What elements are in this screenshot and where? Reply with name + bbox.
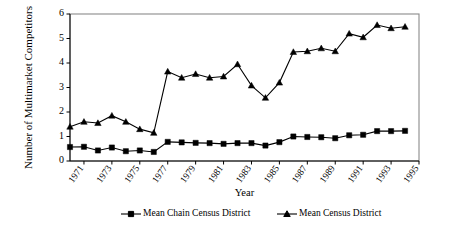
data-point [165,139,170,144]
chart-background [0,0,452,226]
data-point [235,141,240,146]
data-point [249,141,254,146]
data-point [221,141,226,146]
legend-square-marker-icon [128,211,133,216]
data-point [305,134,310,139]
data-point [95,148,100,153]
y-tick-label: 3 [59,81,64,92]
legend-label: Mean Chain Census District [143,208,251,218]
data-point [81,144,86,149]
data-point [347,133,352,138]
y-tick-label: 4 [59,56,64,67]
data-point [388,129,393,134]
data-point [207,141,212,146]
data-point [277,140,282,145]
data-point [193,140,198,145]
data-point [291,134,296,139]
data-point [333,136,338,141]
y-tick-label: 1 [59,130,64,141]
data-point [402,128,407,133]
x-axis-title: Year [235,187,255,198]
data-point [263,143,268,148]
data-point [109,145,114,150]
data-point [361,132,366,137]
y-tick-label: 2 [59,105,64,116]
y-tick-label: 5 [59,32,64,43]
line-chart: 6543210 19711973197519771979198119831985… [0,0,452,226]
legend-label: Mean Census District [299,208,382,218]
y-tick-label: 0 [59,154,64,165]
data-point [319,135,324,140]
data-point [67,144,72,149]
data-point [375,129,380,134]
data-point [137,148,142,153]
data-point [123,149,128,154]
y-tick-label: 6 [59,7,64,18]
chart-container: 6543210 19711973197519771979198119831985… [0,0,452,226]
data-point [179,140,184,145]
data-point [151,149,156,154]
y-axis-title: Number of Multimarket Competitors [22,6,34,169]
